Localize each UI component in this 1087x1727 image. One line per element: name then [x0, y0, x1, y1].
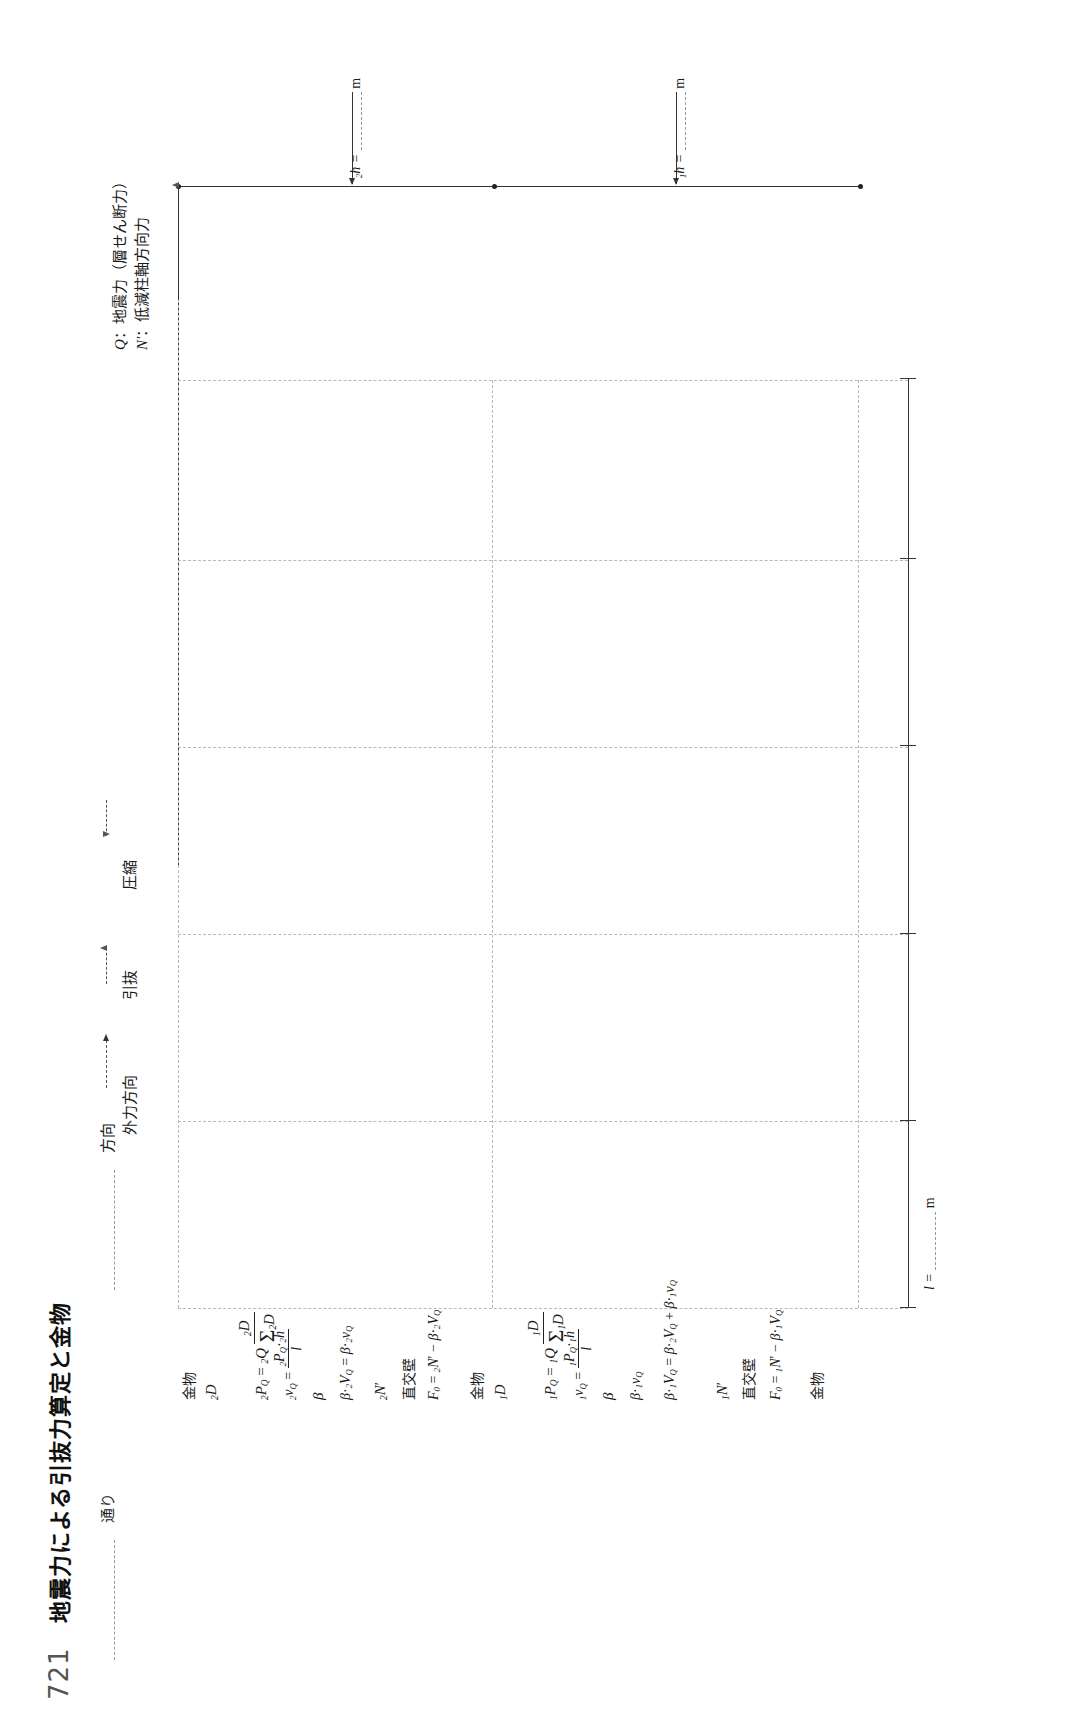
b1: β	[600, 1393, 616, 1400]
p1: 2	[278, 1362, 288, 1366]
legend-text-q: 地震力（層せん断力）	[111, 174, 129, 324]
p1: 2	[344, 1384, 354, 1388]
story1-height-input[interactable]	[673, 92, 687, 150]
story2-height-input[interactable]	[349, 92, 363, 150]
plan-span-symbol: l =	[922, 1273, 937, 1290]
plan-span-label[interactable]: l = m	[922, 1197, 938, 1290]
story1-height-label[interactable]: 1h = m	[672, 78, 688, 178]
v1: v	[628, 1378, 643, 1384]
compression-text: 圧縮	[121, 860, 139, 890]
formula-row-2f-vq: 2vQ = 2PQ·2h l	[272, 1329, 305, 1400]
z1: 0	[774, 1387, 784, 1391]
n1: N	[426, 1359, 441, 1368]
formula-row-2f-hardware: 金物	[178, 1372, 198, 1400]
legend-item-nprime: N′：低減柱軸方向力	[130, 217, 151, 350]
q2: Q	[568, 1347, 578, 1353]
legend-separator-q: ：	[111, 324, 129, 339]
formula-row-1f-vq: 1vQ = 1PQ·1h l	[562, 1329, 595, 1400]
p1: 1	[721, 1395, 731, 1400]
hw3: 金物	[809, 1372, 825, 1400]
fraction-Ph-l: 2PQ·2h l	[272, 1329, 305, 1368]
q1: Q	[344, 1369, 354, 1375]
story1-dimension-arrowhead	[673, 178, 679, 185]
direction-input[interactable]	[101, 1170, 116, 1290]
story2-height-label[interactable]: 2h = m	[348, 78, 364, 178]
pullout-label: 引抜	[118, 970, 139, 1000]
s1: v	[571, 1389, 586, 1395]
s2: P	[562, 1353, 577, 1362]
p2: 2	[668, 1338, 678, 1342]
s1: P	[542, 1386, 558, 1395]
grid-col-rule-3	[858, 380, 859, 1308]
line-field[interactable]: 通り	[96, 1493, 117, 1661]
p2: 1	[568, 1362, 578, 1366]
elevation-force-arrowhead	[172, 182, 179, 188]
c1: ·	[338, 1388, 353, 1393]
n1: N	[768, 1359, 783, 1368]
pr1: ′	[372, 1382, 388, 1385]
p2: 2	[432, 1325, 442, 1329]
story2-unit: m	[348, 78, 363, 89]
line-input[interactable]	[101, 1540, 116, 1660]
cw1: 直交壁	[401, 1358, 417, 1400]
legend-symbol-q: Q	[112, 339, 128, 350]
page-title: 721 地震力による引抜力算定と金物	[42, 1302, 74, 1700]
story1-prefix: 1	[678, 174, 688, 178]
q1: Q	[668, 1369, 678, 1375]
b2: β	[662, 1347, 677, 1354]
compression-arrowhead	[103, 831, 110, 837]
line-field-label: 通り	[99, 1493, 117, 1523]
v1: V	[338, 1375, 353, 1384]
v2: v	[338, 1332, 353, 1338]
grid-col-rule-1	[178, 300, 179, 1308]
p3: 1	[532, 1331, 542, 1336]
q1: Q	[578, 1383, 588, 1389]
p3: 1	[668, 1293, 678, 1297]
sym-Q: Q	[253, 1348, 269, 1359]
sym-D1: D	[236, 1320, 252, 1331]
formula-row-1f-D: 1D	[492, 1385, 509, 1401]
pr1: ′	[714, 1382, 730, 1385]
p1: 1	[578, 1396, 588, 1400]
grid-row-rule-6	[178, 1308, 908, 1309]
legend-item-q: Q：地震力（層せん断力）	[108, 174, 129, 350]
fraction-Ph-l-1f: 1PQ·1h l	[562, 1329, 595, 1368]
formula-row-2f-f0: F0 = 2N′ − β·2VQ	[426, 1310, 442, 1400]
external-force-text: 外力方向	[121, 1075, 139, 1135]
p2: 1	[774, 1325, 784, 1329]
grid-row-rule-2	[178, 560, 908, 561]
s2: Q	[542, 1348, 558, 1359]
sym-D2: D	[261, 1314, 277, 1325]
p2: 2	[344, 1338, 354, 1342]
legend-symbol-nprime: N′	[134, 337, 150, 350]
story1-h: h =	[672, 154, 687, 174]
sym-P: P	[253, 1386, 269, 1395]
b1: β	[662, 1393, 677, 1400]
q1: Q	[634, 1372, 644, 1378]
m1: −	[768, 1344, 783, 1352]
compression-label: 圧縮	[118, 860, 139, 890]
story2-prefix: 2	[354, 174, 364, 178]
f1: F	[426, 1391, 441, 1400]
formula-row-2f-beta: β	[310, 1393, 327, 1400]
direction-field[interactable]: 方向	[96, 1123, 117, 1291]
s3: h	[562, 1331, 577, 1338]
formula-row-1f-beta: β	[600, 1393, 617, 1400]
e1: =	[662, 1358, 677, 1366]
c2: ·	[338, 1343, 353, 1348]
plan-span-input[interactable]	[923, 1212, 937, 1270]
worksheet-tick-1	[900, 378, 916, 379]
b1: β	[628, 1393, 643, 1400]
p1: 1	[499, 1395, 509, 1400]
b1: β	[426, 1334, 441, 1341]
formula-row-2f-nprime: 2N′	[372, 1382, 389, 1400]
q1: Q	[432, 1310, 442, 1316]
plan-span-dimension-line	[908, 1122, 909, 1308]
s4: D	[550, 1314, 566, 1325]
n1: N	[372, 1385, 388, 1395]
external-force-arrow	[106, 1040, 107, 1088]
op-eq: =	[281, 1372, 296, 1380]
p1: 1	[774, 1368, 784, 1372]
s3: ·	[272, 1342, 287, 1347]
s4: l	[579, 1347, 594, 1351]
